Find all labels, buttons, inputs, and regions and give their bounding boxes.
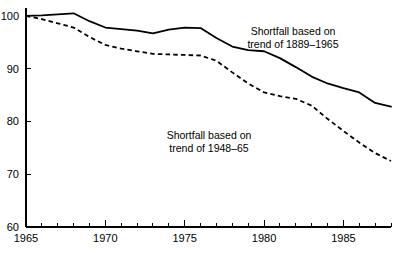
y-tick-label-70: 70 — [7, 168, 19, 180]
annotation-1889-1965-line1: Shortfall based on — [251, 25, 336, 37]
x-axis-tick-labels: 19651970197519801985 — [14, 232, 356, 244]
annotation-1948-65-line2: trend of 1948–65 — [169, 142, 249, 154]
y-axis-tick-labels: 60708090100 — [1, 10, 19, 233]
x-tick-label-1980: 1980 — [252, 232, 276, 244]
y-tick-label-100: 100 — [1, 10, 19, 22]
x-tick-label-1985: 1985 — [331, 232, 355, 244]
y-tick-label-90: 90 — [7, 63, 19, 75]
annotation-1948-65-line1: Shortfall based on — [167, 129, 252, 141]
y-axis-ticks — [26, 16, 31, 227]
annotation-trend-1948-65: Shortfall based on trend of 1948–65 — [167, 129, 252, 154]
y-tick-label-80: 80 — [7, 115, 19, 127]
x-axis-ticks — [42, 220, 391, 227]
x-tick-label-1965: 1965 — [14, 232, 38, 244]
series-line-trend-1889-1965 — [26, 13, 391, 106]
annotation-trend-1889-1965: Shortfall based on trend of 1889–1965 — [247, 25, 338, 50]
x-tick-label-1975: 1975 — [172, 232, 196, 244]
chart-container: 60708090100 19651970197519801985 Shortfa… — [0, 0, 406, 253]
x-tick-label-1970: 1970 — [93, 232, 117, 244]
annotation-1889-1965-line2: trend of 1889–1965 — [247, 38, 338, 50]
line-chart: 60708090100 19651970197519801985 Shortfa… — [0, 0, 406, 253]
